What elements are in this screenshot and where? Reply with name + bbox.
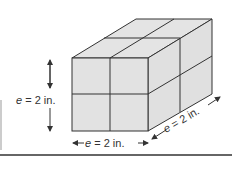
- cube-diagram: e = 2 in. e = 2 in. e = 2 in.: [0, 0, 232, 172]
- prism-figure: e = 2 in. e = 2 in. e = 2 in.: [0, 0, 232, 172]
- height-label: e = 2 in.: [16, 94, 55, 106]
- width-label: e = 2 in.: [85, 137, 124, 149]
